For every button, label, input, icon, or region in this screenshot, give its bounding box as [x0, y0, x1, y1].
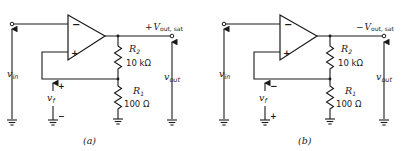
r1-value: 100 Ω — [336, 99, 362, 109]
vf-bottom-sign: − — [58, 112, 65, 121]
vin-terminal — [10, 22, 14, 26]
opamp-inverting-sign: − — [284, 19, 292, 30]
resistor-r1 — [327, 79, 334, 119]
vin-label: vin — [7, 68, 18, 81]
ground-icon — [260, 120, 270, 125]
vin-label: vin — [219, 68, 230, 81]
r2-label: R2 — [128, 43, 140, 55]
resistor-r2 — [327, 36, 334, 79]
opamp-inverting-sign: − — [72, 19, 80, 30]
opamp-noninverting-sign: + — [71, 48, 79, 58]
circuit-panel-b: − + −Vout, sat R2 10 kΩ R1 100 Ω vin vou… — [219, 15, 394, 146]
ground-icon — [113, 119, 123, 124]
ground-icon — [7, 120, 17, 125]
r1-value: 100 Ω — [124, 99, 150, 109]
r1-label: R1 — [344, 85, 356, 97]
ground-icon — [167, 120, 177, 125]
ground-icon — [379, 120, 389, 125]
ground-icon — [219, 120, 229, 125]
r2-label: R2 — [340, 43, 352, 55]
vf-bottom-sign: + — [270, 112, 277, 121]
caption-b: (b) — [298, 135, 312, 146]
vf-top-sign: + — [58, 82, 65, 91]
vout-terminal — [382, 34, 386, 38]
ground-icon — [48, 120, 58, 125]
circuit-panel-a: − + +Vout, sat R2 10 kΩ R1 100 Ω vin vou… — [7, 15, 183, 146]
r2-value: 10 kΩ — [126, 58, 151, 68]
resistor-r1 — [115, 79, 122, 119]
vf-label: vf — [47, 92, 56, 105]
r1-label: R1 — [132, 85, 144, 97]
vout-sat-label: +Vout, sat — [145, 22, 183, 32]
ground-icon — [325, 119, 335, 124]
caption-a: (a) — [83, 135, 96, 146]
vout-terminal — [170, 34, 174, 38]
circuit-figure: − + +Vout, sat R2 10 kΩ R1 100 Ω vin vou… — [0, 0, 405, 151]
resistor-r2 — [115, 36, 122, 79]
vf-label: vf — [259, 92, 268, 105]
vout-sat-label: −Vout, sat — [356, 22, 394, 32]
vf-top-sign: − — [270, 81, 278, 91]
vin-terminal — [222, 22, 226, 26]
r2-value: 10 kΩ — [338, 58, 363, 68]
opamp-noninverting-sign: + — [283, 48, 291, 58]
